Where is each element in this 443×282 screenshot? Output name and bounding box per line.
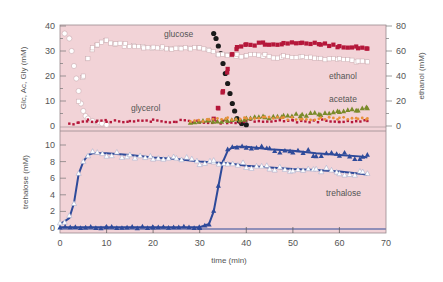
bottom-left-tick-labels: 10 8 6 4 2 0 <box>45 140 55 233</box>
data-point <box>346 58 350 62</box>
data-point <box>281 54 285 58</box>
data-point <box>160 45 164 49</box>
data-point <box>355 120 357 122</box>
glucose-label: glucose <box>164 29 194 39</box>
data-point <box>81 74 85 78</box>
data-point <box>300 54 304 58</box>
data-point <box>71 63 76 68</box>
data-point <box>227 91 232 96</box>
data-point <box>244 54 248 58</box>
data-point <box>346 46 350 50</box>
svg-text:6: 6 <box>50 173 55 183</box>
bottom-left-axis-title: trehalose (mM) <box>21 155 30 209</box>
data-point <box>220 118 223 121</box>
svg-text:2: 2 <box>50 206 55 216</box>
data-point <box>170 47 174 51</box>
data-point <box>208 118 211 121</box>
data-point <box>275 56 279 60</box>
data-point <box>193 119 196 122</box>
data-point <box>357 118 360 121</box>
svg-text:20: 20 <box>148 238 158 248</box>
data-point <box>220 52 224 56</box>
data-point <box>365 47 369 51</box>
data-point <box>239 44 243 48</box>
svg-text:80: 80 <box>396 21 406 31</box>
data-point <box>305 118 308 121</box>
data-point <box>292 119 294 121</box>
data-point <box>82 120 84 122</box>
svg-text:0: 0 <box>57 238 62 248</box>
data-point <box>331 43 335 47</box>
data-point <box>308 55 312 59</box>
data-point <box>91 46 95 50</box>
data-point <box>308 42 312 46</box>
data-point <box>258 120 260 122</box>
data-point <box>183 46 187 50</box>
data-point <box>267 43 271 47</box>
x-tick-labels: 0 10 20 30 40 50 60 70 <box>57 238 391 248</box>
data-point <box>317 121 319 123</box>
data-point <box>262 121 264 123</box>
data-point <box>356 59 360 63</box>
data-point <box>95 43 99 47</box>
data-point <box>165 121 167 123</box>
data-point <box>211 50 215 54</box>
data-point <box>150 120 152 122</box>
data-point <box>216 117 219 120</box>
data-point <box>290 56 294 60</box>
data-point <box>74 76 79 81</box>
top-left-tick-labels: 40 30 20 10 0 <box>45 21 55 131</box>
data-point <box>99 40 103 44</box>
svg-text:0: 0 <box>396 121 401 131</box>
data-point <box>156 119 158 121</box>
x-axis-title: time (min) <box>211 256 247 265</box>
data-point <box>173 121 175 123</box>
data-point <box>188 47 192 51</box>
ethanol-label: ethanol <box>329 71 357 81</box>
data-point <box>100 119 102 121</box>
top-right-axis-title: ethanol (mM) <box>417 52 426 99</box>
data-point <box>272 117 275 120</box>
data-point <box>308 121 310 123</box>
data-point <box>300 41 304 45</box>
svg-text:40: 40 <box>45 21 55 31</box>
data-point <box>286 118 289 121</box>
svg-text:60: 60 <box>334 238 344 248</box>
data-point <box>244 42 248 46</box>
data-point <box>361 117 364 120</box>
data-point <box>239 55 243 59</box>
data-point <box>169 121 171 123</box>
data-point <box>118 41 122 45</box>
data-point <box>230 52 234 56</box>
data-point <box>281 41 285 45</box>
data-point <box>146 46 150 50</box>
data-point <box>263 43 267 47</box>
data-point <box>248 43 252 47</box>
data-point <box>360 59 364 63</box>
svg-text:0: 0 <box>50 121 55 131</box>
data-point <box>145 119 147 121</box>
data-point <box>271 42 275 46</box>
data-point <box>313 41 317 45</box>
data-point <box>334 120 336 122</box>
data-point <box>216 106 220 110</box>
data-point <box>232 108 237 113</box>
data-point <box>257 53 261 57</box>
data-point <box>76 88 81 93</box>
data-point <box>105 121 107 123</box>
data-point <box>221 89 225 93</box>
data-point <box>202 47 206 51</box>
data-point <box>279 119 281 121</box>
data-point <box>67 36 72 41</box>
data-point <box>245 117 248 120</box>
svg-text:20: 20 <box>45 71 55 81</box>
data-point <box>332 116 335 119</box>
svg-text:50: 50 <box>288 238 298 248</box>
data-point <box>304 41 308 45</box>
data-point <box>91 121 93 123</box>
data-point <box>249 117 252 120</box>
data-point <box>179 47 183 51</box>
svg-text:10: 10 <box>102 238 112 248</box>
data-point <box>296 121 298 123</box>
svg-text:10: 10 <box>45 140 55 150</box>
